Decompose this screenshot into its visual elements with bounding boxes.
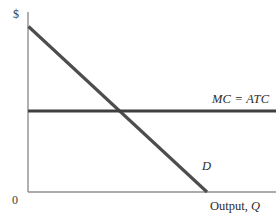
x-axis-label-text: Output,	[210, 199, 248, 213]
plot-area	[0, 0, 277, 220]
x-axis-label: Output, Q	[210, 200, 260, 213]
demand-curve	[29, 27, 208, 193]
origin-label: 0	[12, 194, 18, 206]
economics-diagram: $ 0 MC = ATC D Output, Q	[0, 0, 277, 220]
x-axis-label-variable: Q	[251, 199, 260, 213]
mc-atc-label: MC = ATC	[212, 93, 269, 106]
demand-curve-label: D	[202, 160, 211, 173]
y-axis-label: $	[13, 8, 19, 20]
